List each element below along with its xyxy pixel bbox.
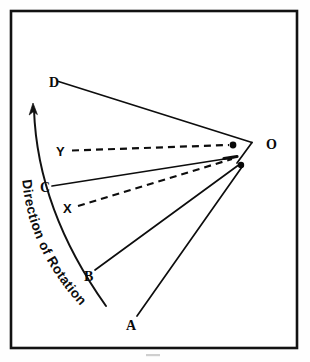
pivot-edge-tick <box>224 157 237 159</box>
label-Y: Y <box>56 144 65 159</box>
label-A: A <box>126 318 137 333</box>
label-D: D <box>49 75 59 90</box>
label-C: C <box>40 180 50 195</box>
label-B: B <box>84 269 93 284</box>
rotation-diagram: Direction of Rotation D Y C X B A O <box>0 0 310 362</box>
outer-border <box>11 11 297 348</box>
upper-pivot-dot <box>230 142 237 149</box>
paper-smudge <box>146 354 160 356</box>
figure-root: Direction of Rotation D Y C X B A O <box>0 0 310 362</box>
label-X: X <box>63 201 72 216</box>
label-O: O <box>266 137 277 152</box>
lower-pivot-dot <box>238 162 244 168</box>
